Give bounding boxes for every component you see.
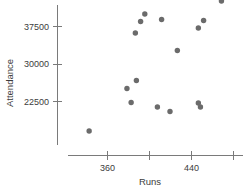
- data-point: [196, 25, 201, 30]
- y-tick-label-37500: 37500: [24, 22, 49, 32]
- chart-canvas: 225003000037500 Attendance 360440 Runs: [0, 0, 246, 193]
- y-tick-label-22500: 22500: [24, 97, 49, 107]
- y-axis: 225003000037500 Attendance: [4, 5, 62, 145]
- data-point: [138, 19, 143, 24]
- x-tick-label-360: 360: [100, 163, 115, 173]
- y-axis-title: Attendance: [4, 59, 15, 107]
- x-axis-tick-labels: 360440: [100, 163, 199, 173]
- data-point: [201, 18, 206, 23]
- x-axis-title: Runs: [139, 176, 161, 187]
- data-point: [198, 104, 203, 109]
- data-point: [133, 30, 138, 35]
- data-point: [219, 0, 224, 4]
- data-point: [124, 86, 129, 91]
- data-point: [175, 48, 180, 53]
- data-point: [167, 109, 172, 114]
- data-point: [86, 128, 91, 133]
- x-axis: 360440 Runs: [68, 151, 243, 187]
- x-tick-label-440: 440: [184, 163, 199, 173]
- data-point: [142, 11, 147, 16]
- y-axis-tick-labels: 225003000037500: [24, 22, 49, 107]
- data-point: [134, 78, 139, 83]
- data-point: [155, 104, 160, 109]
- scatter-plot-figure: 225003000037500 Attendance 360440 Runs: [0, 0, 246, 193]
- data-points-layer: [86, 0, 224, 134]
- data-point: [128, 100, 133, 105]
- y-tick-label-30000: 30000: [24, 59, 49, 69]
- data-point: [159, 17, 164, 22]
